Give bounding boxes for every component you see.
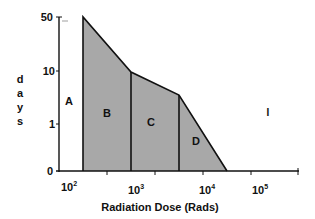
y-tick-label-0: 0 <box>47 165 53 177</box>
region-label-i: I <box>267 107 270 118</box>
y-tick-label-10: 10 <box>43 65 55 77</box>
region-label-b: B <box>103 107 111 119</box>
radiation-dose-chart: 50 10 1 0 d a y s 102 103 104 105 Radiat… <box>0 0 315 219</box>
x-tick-label-1e2: 102 <box>61 180 77 193</box>
y-tick-label-1: 1 <box>49 118 55 130</box>
region-label-a: A <box>65 95 73 107</box>
shaded-region <box>83 17 227 171</box>
y-label-y: y <box>17 101 24 113</box>
region-label-d: D <box>192 135 200 147</box>
x-tick-label-1e3: 103 <box>128 183 144 196</box>
x-axis-title: Radiation Dose (Rads) <box>101 201 219 213</box>
y-label-d: d <box>17 73 24 85</box>
x-tick-label-1e5: 105 <box>252 183 268 196</box>
region-label-c: C <box>147 116 155 128</box>
x-tick-label-1e4: 104 <box>199 183 215 196</box>
y-label-a: a <box>17 87 24 99</box>
y-tick-label-50: 50 <box>41 11 53 23</box>
y-label-s: s <box>17 115 23 127</box>
